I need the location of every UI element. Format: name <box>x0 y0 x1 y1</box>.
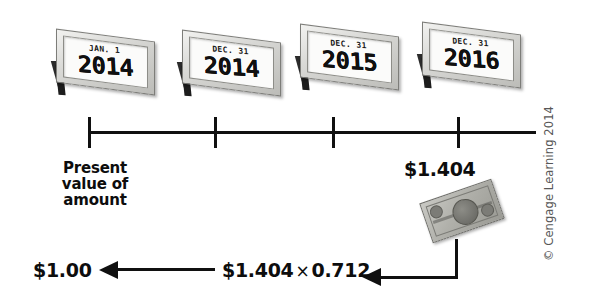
arrow-left-icon <box>99 261 118 279</box>
sign-face: DEC. 31 2014 <box>189 36 274 89</box>
timeline-tick-2014-start <box>88 117 91 148</box>
sign-frame: DEC. 31 2016 <box>422 22 521 89</box>
calendar-sign-dec-31-2016: DEC. 31 2016 <box>413 28 521 90</box>
equation-factor: 0.712 <box>311 259 370 281</box>
bill-body <box>419 179 505 243</box>
present-value-line-1: Present <box>34 160 156 176</box>
sign-year-label: 2016 <box>429 43 514 76</box>
present-value-result: $1.00 <box>33 259 92 281</box>
sign-year-label: 2015 <box>307 45 392 78</box>
calendar-sign-dec-31-2014: DEC. 31 2014 <box>173 36 281 98</box>
equation-expression: $1.404×0.712 <box>222 259 370 281</box>
calendar-sign-dec-31-2015: DEC. 31 2015 <box>291 30 399 92</box>
future-amount-label: $1.404 <box>404 158 476 180</box>
sign-frame: JAN. 1 2014 <box>56 29 155 96</box>
sign-frame: DEC. 31 2015 <box>300 24 399 91</box>
sign-face: JAN. 1 2014 <box>63 35 148 88</box>
sign-year-label: 2014 <box>63 50 148 83</box>
calendar-sign-jan-1-2014: JAN. 1 2014 <box>47 35 155 97</box>
dollar-bill-icon <box>419 179 505 243</box>
sign-year-label: 2014 <box>189 51 274 84</box>
present-value-label: Present value of amount <box>34 160 156 208</box>
sign-face: DEC. 31 2016 <box>429 28 514 81</box>
connector-horizontal-segment <box>378 276 458 279</box>
present-value-line-3: amount <box>34 192 156 208</box>
result-arrow-shaft <box>117 268 215 271</box>
timeline-tick-2015-end <box>332 117 335 148</box>
sign-face: DEC. 31 2015 <box>307 30 392 83</box>
timeline-tick-2014-end <box>214 117 217 148</box>
present-value-line-2: value of <box>34 176 156 192</box>
equation-operand: $1.404 <box>222 259 294 281</box>
multiplication-sign: × <box>294 261 312 281</box>
connector-vertical-segment <box>455 239 458 279</box>
timeline-axis <box>88 131 536 134</box>
sign-frame: DEC. 31 2014 <box>182 30 281 97</box>
present-value-timeline-figure: JAN. 1 2014 DEC. 31 2014 DEC. 31 2015 <box>0 0 589 304</box>
copyright-notice: © Cengage Learning 2014 <box>542 106 556 282</box>
timeline-tick-2016-end <box>457 117 460 148</box>
